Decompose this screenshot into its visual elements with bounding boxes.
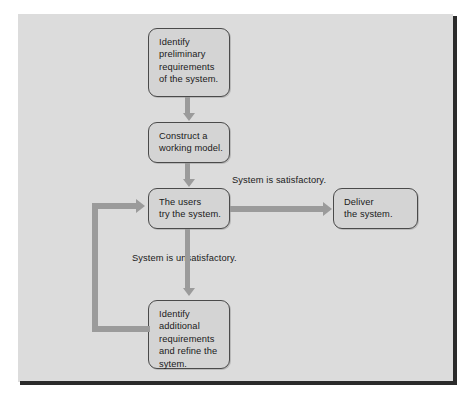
- node-deliver-the-system[interactable]: Deliver the system.: [333, 188, 418, 229]
- arrow-right-icon: [136, 199, 145, 213]
- arrow-down-icon: [183, 113, 195, 121]
- arrow-right-icon: [323, 202, 332, 216]
- node-text-line: of the system.: [159, 73, 229, 85]
- flowchart-canvas: Identify preliminary requirements of the…: [0, 0, 469, 405]
- arrow-users-to-deliver-shaft: [230, 206, 325, 212]
- arrow-prelim-to-construct-shaft: [185, 97, 190, 114]
- node-text-line: and refine the: [159, 345, 229, 357]
- node-users-try-the-system[interactable]: The users try the system.: [148, 188, 230, 229]
- node-construct-working-model[interactable]: Construct a working model.: [148, 122, 230, 163]
- node-text-line: sytem.: [159, 358, 229, 370]
- feedback-loop-left-segment: [92, 203, 98, 332]
- node-text-line: try the system.: [159, 208, 229, 220]
- node-identify-additional-requirements[interactable]: Identify additional requirements and ref…: [148, 300, 230, 369]
- arrow-construct-to-users-shaft: [185, 163, 190, 180]
- node-text-line: preliminary: [159, 48, 229, 60]
- node-text-line: additional: [159, 320, 229, 332]
- node-identify-preliminary-requirements[interactable]: Identify preliminary requirements of the…: [148, 28, 230, 97]
- arrow-down-icon: [183, 179, 195, 187]
- node-text-line: Identify: [159, 308, 229, 320]
- node-text-line: Deliver: [344, 196, 417, 208]
- node-text-line: Identify: [159, 36, 229, 48]
- edge-label-system-is-satisfactory: System is satisfactory.: [232, 175, 326, 185]
- node-text-line: Construct a: [159, 130, 229, 142]
- node-text-line: the system.: [344, 208, 417, 220]
- node-text-line: The users: [159, 196, 229, 208]
- feedback-loop-top-segment: [92, 203, 138, 209]
- feedback-loop-bottom-segment: [92, 326, 150, 332]
- node-text-line: working model.: [159, 142, 229, 154]
- node-text-line: requirements: [159, 61, 229, 73]
- arrow-down-icon: [183, 288, 195, 296]
- node-text-line: requirements: [159, 333, 229, 345]
- arrow-users-to-identify-additional-shaft: [185, 229, 190, 289]
